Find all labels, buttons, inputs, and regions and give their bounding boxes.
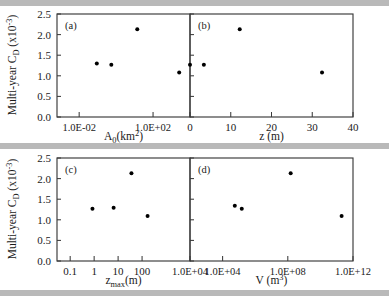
x-axis-title-d: V (m3): [256, 273, 288, 287]
data-point: [109, 63, 113, 67]
y-tick-label: 2.5: [37, 8, 51, 20]
x-tick-label: 1.0E+04: [172, 266, 209, 277]
x-axis-title-c-sub: max: [111, 280, 126, 289]
middle-banner-strip: [0, 143, 389, 149]
y-axis-title: Multi-year CD (x10-3): [5, 159, 21, 260]
data-point: [112, 206, 116, 210]
x-tick-label: 1.0E-02: [62, 122, 96, 133]
y-axis-title-scale: (x10: [6, 169, 19, 193]
x-axis-title-a-baseline: (km: [116, 130, 135, 143]
panel-frame-a: [57, 14, 190, 117]
data-point: [320, 71, 324, 75]
x-tick-label: 30: [307, 121, 319, 133]
y-axis-title-text: Multi-year CD (x10-3): [5, 159, 21, 260]
x-tick-label: 10: [225, 121, 237, 133]
x-tick-label: 0: [187, 121, 193, 133]
bottom-banner-strip: [0, 290, 389, 296]
y-tick-label: 1.5: [37, 49, 51, 61]
data-point: [135, 27, 139, 31]
data-point: [202, 63, 206, 67]
y-axis-title-close: ): [6, 159, 19, 163]
y-tick-label: 1.5: [37, 193, 51, 205]
x-tick-label: 10: [113, 265, 125, 277]
data-point: [238, 27, 242, 31]
y-tick-label: 2.0: [37, 29, 51, 41]
x-tick-label: 1.0E+12: [335, 266, 371, 277]
data-point: [146, 214, 150, 218]
y-tick-label: 0.0: [37, 255, 51, 267]
data-point: [188, 63, 192, 67]
y-tick-label: 0.0: [37, 111, 51, 123]
panel-tag-b: (b): [198, 20, 211, 32]
y-tick-label: 1.0: [37, 214, 51, 226]
data-point: [129, 171, 133, 175]
y-tick-label: 2.0: [37, 173, 51, 185]
x-tick-label: 0.1: [63, 265, 77, 277]
data-point: [90, 207, 94, 211]
panel-tag-a: (a): [65, 20, 77, 32]
data-point: [95, 61, 99, 65]
x-axis-title-a-baseline: ): [139, 130, 143, 143]
x-tick-label: 1.0E+04: [205, 266, 242, 277]
panel-tag-d: (d): [198, 164, 211, 176]
x-tick-label: 1: [91, 265, 97, 277]
y-axis-title-exponent: -3: [5, 19, 14, 26]
figure-panel-grid: (a)0.00.51.01.52.02.51.0E-021.0E+02(b)01…: [0, 0, 389, 296]
panel-frame-d: [190, 158, 353, 261]
y-axis-title-text: Multi-year CD (x10-3): [5, 15, 21, 116]
panel-frame-b: [190, 14, 353, 117]
y-axis-title-exponent: -3: [5, 163, 14, 170]
y-axis-title-scale: (x10: [6, 25, 19, 49]
panel-tag-c: (c): [65, 164, 77, 176]
y-tick-label: 1.0: [37, 70, 51, 82]
top-banner-strip: [0, 0, 389, 6]
panel-frame-c: [57, 158, 190, 261]
data-point: [233, 204, 237, 208]
x-axis-title-c-baseline: (m): [125, 274, 142, 287]
y-axis-title: Multi-year CD (x10-3): [5, 15, 21, 116]
y-tick-label: 0.5: [37, 234, 51, 246]
data-point: [177, 71, 181, 75]
y-tick-label: 0.5: [37, 90, 51, 102]
x-axis-title-b: z (m): [259, 130, 284, 143]
data-point: [340, 214, 344, 218]
x-axis-title-d-baseline: ): [284, 274, 288, 287]
y-tick-label: 2.5: [37, 152, 51, 164]
y-axis-title-close: ): [6, 15, 19, 19]
data-point: [240, 207, 244, 211]
x-tick-label: 40: [348, 121, 360, 133]
data-point: [289, 171, 293, 175]
